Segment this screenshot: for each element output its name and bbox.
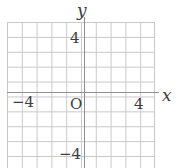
y-axis-line (84, 17, 85, 168)
y-tick-label-negative-4: −4 (59, 147, 81, 162)
x-tick-label-positive-4: 4 (134, 97, 144, 112)
y-tick-label-positive-4: 4 (70, 31, 80, 46)
y-axis-label: y (77, 2, 87, 19)
origin-label: O (70, 97, 82, 112)
x-axis-label: x (162, 87, 172, 104)
x-tick-label-negative-4: −4 (12, 95, 34, 110)
coordinate-grid-figure: y x 4 O −4 4 −4 (0, 0, 177, 168)
